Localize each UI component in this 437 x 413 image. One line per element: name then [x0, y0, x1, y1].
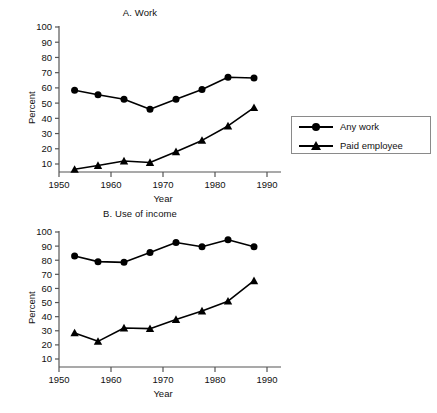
- legend-item-paid-employee: Paid employee: [292, 136, 430, 155]
- legend-label: Paid employee: [340, 140, 403, 151]
- triangle-marker-icon: [299, 140, 333, 152]
- svg-text:90: 90: [41, 241, 52, 252]
- svg-text:30: 30: [41, 128, 52, 139]
- svg-text:80: 80: [41, 52, 52, 63]
- svg-text:50: 50: [41, 297, 52, 308]
- svg-text:10: 10: [41, 353, 52, 364]
- svg-text:40: 40: [41, 311, 52, 322]
- panel-a-work: A. Work Percent Year 1020304050607080901…: [0, 0, 437, 200]
- svg-text:1950: 1950: [48, 374, 69, 385]
- legend-item-any-work: Any work: [292, 117, 430, 136]
- svg-text:1990: 1990: [256, 374, 277, 385]
- svg-text:20: 20: [41, 339, 52, 350]
- panel-a-legend: Any work Paid employee: [291, 116, 431, 154]
- svg-text:1970: 1970: [152, 374, 173, 385]
- svg-text:100: 100: [36, 226, 52, 237]
- circle-marker-icon: [299, 121, 333, 133]
- svg-text:10: 10: [41, 158, 52, 169]
- panel-a-plot: 1020304050607080901001950196019701980199…: [0, 0, 290, 200]
- panel-b-use-of-income: B. Use of income Percent Year 1020304050…: [0, 200, 437, 413]
- svg-text:90: 90: [41, 37, 52, 48]
- svg-text:1960: 1960: [100, 179, 121, 190]
- svg-text:1980: 1980: [204, 179, 225, 190]
- svg-text:70: 70: [41, 269, 52, 280]
- svg-text:20: 20: [41, 143, 52, 154]
- svg-text:80: 80: [41, 255, 52, 266]
- svg-text:60: 60: [41, 82, 52, 93]
- svg-text:1960: 1960: [100, 374, 121, 385]
- svg-text:1950: 1950: [48, 179, 69, 190]
- svg-text:1990: 1990: [256, 179, 277, 190]
- figure-two-panel-line-charts: A. Work Percent Year 1020304050607080901…: [0, 0, 437, 413]
- svg-text:30: 30: [41, 325, 52, 336]
- svg-text:60: 60: [41, 283, 52, 294]
- svg-text:50: 50: [41, 98, 52, 109]
- svg-text:70: 70: [41, 67, 52, 78]
- svg-text:1980: 1980: [204, 374, 225, 385]
- panel-b-plot: 1020304050607080901001950196019701980199…: [0, 200, 290, 413]
- svg-text:1970: 1970: [152, 179, 173, 190]
- svg-text:40: 40: [41, 113, 52, 124]
- svg-text:100: 100: [36, 21, 52, 32]
- legend-label: Any work: [340, 121, 379, 132]
